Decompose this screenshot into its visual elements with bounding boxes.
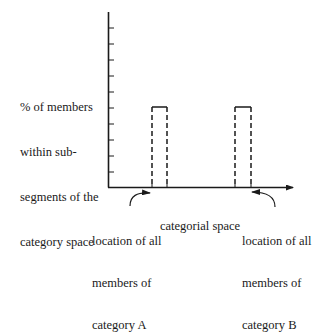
y-axis-label-line: segments of the: [20, 190, 98, 205]
annotation-line: members of: [92, 276, 161, 290]
annotation-line: members of: [242, 276, 311, 290]
y-axis-label-line: % of members: [20, 100, 98, 115]
y-axis-label-line: within sub-: [20, 145, 98, 160]
bar-category-a: [152, 107, 167, 187]
annotation-category-a: location of all members of category A: [92, 206, 161, 336]
arrow-category-b: [252, 192, 275, 207]
annotation-category-b: location of all members of category B: [242, 206, 311, 336]
annotation-line: location of all: [242, 234, 311, 248]
bar-category-b: [235, 107, 251, 187]
y-axis-label: % of members within sub- segments of the…: [20, 70, 98, 265]
y-axis-label-line: category space: [20, 235, 98, 250]
annotation-line: category B: [242, 318, 311, 332]
annotation-line: location of all: [92, 234, 161, 248]
x-axis-label: categorial space: [160, 191, 240, 247]
annotation-line: category A: [92, 318, 161, 332]
y-axis-ticks: [109, 28, 115, 172]
arrow-category-a: [130, 193, 150, 206]
